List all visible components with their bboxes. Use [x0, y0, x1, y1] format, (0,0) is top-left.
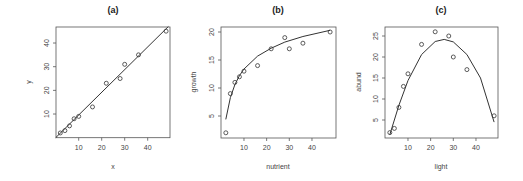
panel-c-x-label: light — [435, 163, 448, 171]
panel-a-x-tick-label: 20 — [98, 144, 106, 151]
panel-c-x-tick-label: 30 — [449, 144, 457, 151]
panel-b-x-tick-label: 10 — [240, 144, 248, 151]
panel-a: (a) 10203040 10203040 x y — [25, 5, 170, 170]
panel-c-y-tick-label: 25 — [372, 32, 379, 40]
data-point — [256, 64, 260, 68]
panel-c: (c) 10203040 510152025 light abund — [355, 5, 498, 171]
panel-c-x-tick-label: 40 — [472, 144, 480, 151]
panel-c-y-tick-label: 10 — [372, 95, 379, 103]
data-point — [118, 77, 122, 81]
data-point — [301, 41, 305, 45]
panel-c-x-tick-label: 10 — [404, 144, 412, 151]
panel-b-x-tick-label: 20 — [263, 144, 271, 151]
panel-b-y-tick-label: 20 — [208, 28, 215, 36]
panel-a-x-tick-label: 10 — [75, 144, 83, 151]
data-point — [283, 36, 287, 40]
panel-a-y-tick-label: 30 — [43, 63, 50, 71]
panel-b-x-label: nutrient — [266, 163, 289, 170]
data-point — [164, 29, 168, 33]
panel-a-y-label: y — [25, 80, 33, 84]
panel-a-y-tick-label: 10 — [43, 110, 50, 118]
panel-b-fit-curve — [226, 30, 330, 119]
panel-b: (b) 10203040 5101520 nutrient growth — [190, 5, 336, 170]
panel-a-x-tick-label: 40 — [144, 144, 152, 151]
panel-a-y-tick-label: 20 — [43, 86, 50, 94]
data-point — [420, 42, 424, 46]
panel-b-x-axis: 10203040 — [240, 138, 316, 151]
panel-c-y-label: abund — [355, 72, 362, 92]
figure: (a) 10203040 10203040 x y (b) 10203040 5… — [0, 0, 523, 181]
panel-a-x-axis: 10203040 — [75, 138, 152, 151]
data-point — [91, 105, 95, 109]
panel-c-y-tick-label: 15 — [372, 74, 379, 82]
data-point — [465, 68, 469, 72]
panel-a-x-tick-label: 30 — [121, 144, 129, 151]
panel-b-points — [224, 30, 332, 135]
panel-b-y-tick-label: 15 — [208, 56, 215, 64]
data-point — [401, 84, 405, 88]
panel-a-fit-line — [56, 27, 169, 138]
panel-a-title: (a) — [108, 5, 119, 15]
panel-b-x-tick-label: 40 — [308, 144, 316, 151]
panel-b-x-tick-label: 30 — [285, 144, 293, 151]
panel-c-x-axis: 10203040 — [404, 138, 480, 151]
panel-a-y-tick-label: 40 — [43, 39, 50, 47]
data-point — [392, 126, 396, 130]
data-point — [451, 55, 455, 59]
panel-b-y-tick-label: 5 — [208, 114, 215, 118]
data-point — [447, 34, 451, 38]
data-point — [287, 47, 291, 51]
panel-c-y-tick-label: 5 — [372, 118, 379, 122]
panel-b-title: (b) — [272, 5, 284, 15]
panel-a-x-label: x — [111, 163, 115, 170]
panel-c-title: (c) — [436, 5, 447, 15]
data-point — [433, 30, 437, 34]
panel-c-y-axis: 510152025 — [372, 32, 385, 122]
panel-b-y-tick-label: 10 — [208, 84, 215, 92]
panel-c-plot-box — [385, 27, 498, 138]
panel-a-y-axis: 10203040 — [43, 39, 56, 118]
panel-c-x-tick-label: 20 — [427, 144, 435, 151]
panel-b-plot-box — [221, 27, 336, 138]
data-point — [224, 131, 228, 135]
panel-b-y-axis: 5101520 — [208, 28, 221, 118]
data-point — [123, 62, 127, 66]
data-point — [492, 114, 496, 118]
data-point — [104, 81, 108, 85]
panel-b-y-label: growth — [190, 71, 198, 92]
panel-c-y-tick-label: 20 — [372, 53, 379, 61]
data-point — [406, 72, 410, 76]
panel-c-points — [388, 30, 496, 135]
